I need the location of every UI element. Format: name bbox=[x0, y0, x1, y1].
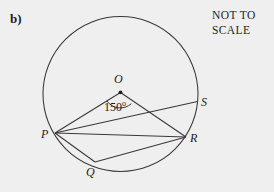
figure-container: b) NOT TO SCALE O P Q R S 150o bbox=[0, 0, 274, 192]
part-label: b) bbox=[10, 11, 22, 27]
not-to-scale-line-2: SCALE bbox=[212, 23, 256, 38]
segment-QR bbox=[95, 137, 186, 162]
point-label-R: R bbox=[190, 131, 197, 146]
segment-PS bbox=[55, 102, 198, 134]
segment-OR bbox=[121, 93, 187, 138]
segment-PQ bbox=[55, 133, 95, 162]
angle-value: 150 bbox=[104, 100, 122, 114]
degree-symbol: o bbox=[122, 99, 126, 108]
not-to-scale-line-1: NOT TO bbox=[212, 8, 256, 23]
angle-measure-label: 150o bbox=[104, 100, 126, 115]
not-to-scale-note: NOT TO SCALE bbox=[212, 8, 256, 37]
point-label-P: P bbox=[41, 127, 48, 142]
centre-point-dot bbox=[119, 90, 123, 94]
point-label-O: O bbox=[114, 72, 123, 87]
point-label-Q: Q bbox=[86, 165, 95, 180]
point-label-S: S bbox=[201, 95, 207, 110]
segment-PR bbox=[55, 133, 186, 137]
